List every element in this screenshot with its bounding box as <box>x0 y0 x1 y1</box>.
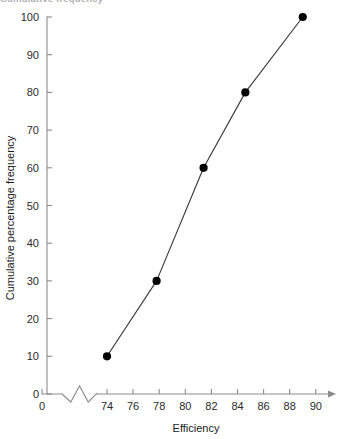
x-tick-label: 90 <box>310 400 322 412</box>
chart-figure: Cumulative frequency 0102030405060708090… <box>0 0 342 439</box>
data-point-marker <box>199 164 207 172</box>
data-point-marker <box>152 277 160 285</box>
chart-plot-area: 0102030405060708090100 74767880828486889… <box>0 0 342 439</box>
x-tick-label: 80 <box>179 400 191 412</box>
y-tick-label: 50 <box>27 200 39 212</box>
data-point-marker <box>299 13 307 21</box>
y-tick-label: 40 <box>27 237 39 249</box>
y-tick-label: 0 <box>33 388 39 400</box>
data-point-marker <box>241 88 249 96</box>
y-tick-label: 100 <box>21 11 39 23</box>
x-tick-label: 78 <box>153 400 165 412</box>
x-tick-label: 82 <box>205 400 217 412</box>
y-tick-label: 20 <box>27 313 39 325</box>
x-tick-label: 74 <box>101 400 113 412</box>
data-series <box>103 13 307 361</box>
y-axis-ticks <box>47 17 52 394</box>
y-tick-label: 60 <box>27 162 39 174</box>
x-axis-origin-label: 0 <box>39 400 45 412</box>
y-tick-label: 70 <box>27 124 39 136</box>
y-axis-tick-labels: 0102030405060708090100 <box>21 11 39 400</box>
y-tick-label: 80 <box>27 86 39 98</box>
series-markers <box>103 13 307 361</box>
y-tick-label: 90 <box>27 49 39 61</box>
series-line <box>107 17 303 356</box>
x-tick-label: 86 <box>257 400 269 412</box>
x-axis-break-zigzag <box>62 386 97 402</box>
y-axis-title: Cumulative percentage frequency <box>4 135 16 300</box>
y-tick-label: 30 <box>27 275 39 287</box>
y-axis: 0102030405060708090100 <box>21 11 52 400</box>
x-tick-label: 88 <box>284 400 296 412</box>
x-axis: 747678808284868890 0 <box>39 386 336 412</box>
x-axis-tick-labels: 747678808284868890 <box>101 400 322 412</box>
x-axis-arrow-icon <box>328 391 336 398</box>
data-point-marker <box>103 352 111 360</box>
x-axis-title: Efficiency <box>173 422 220 434</box>
x-tick-label: 76 <box>127 400 139 412</box>
x-tick-label: 84 <box>231 400 243 412</box>
y-tick-label: 10 <box>27 350 39 362</box>
